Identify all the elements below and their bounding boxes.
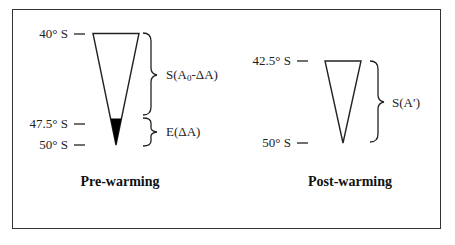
label-e-da: E(ΔA) xyxy=(166,125,200,138)
lat-label-42-5s: 42.5° S xyxy=(237,54,291,67)
pre-braces xyxy=(143,33,157,146)
pre-cone-extinct-tip xyxy=(111,119,122,146)
title-pre-warming: Pre-warming xyxy=(80,174,159,190)
brace-e-da xyxy=(143,118,157,146)
label-s-a0-main: S(A xyxy=(166,67,187,82)
pre-latitude-ticks xyxy=(74,34,85,145)
post-warming-cone xyxy=(325,61,361,143)
post-latitude-ticks xyxy=(297,61,308,143)
brace-s-a-prime xyxy=(370,61,384,142)
lat-label-50s-post: 50° S xyxy=(243,136,291,149)
diagram-artwork xyxy=(0,0,455,245)
pre-warming-cone xyxy=(93,34,139,146)
label-s-a0-minus-da: S(A0-ΔA) xyxy=(166,68,218,81)
lat-label-50s: 50° S xyxy=(20,138,68,151)
label-s-a-prime: S(A′) xyxy=(392,96,420,109)
lat-label-47-5s: 47.5° S xyxy=(14,117,68,130)
brace-s-a0-minus-da xyxy=(143,33,157,115)
lat-label-40s: 40° S xyxy=(20,27,68,40)
title-post-warming: Post-warming xyxy=(308,174,392,190)
label-s-a0-tail: -ΔA) xyxy=(191,67,217,82)
